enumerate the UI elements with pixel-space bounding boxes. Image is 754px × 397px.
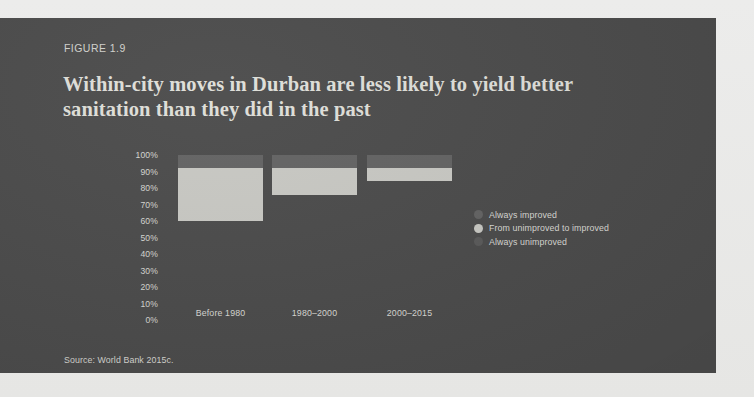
legend-label: From unimproved to improved bbox=[489, 223, 609, 233]
legend-item[interactable]: Always unimproved bbox=[474, 235, 654, 249]
bar-segment[interactable] bbox=[272, 155, 357, 168]
bar-group bbox=[367, 18, 452, 373]
legend-swatch-icon bbox=[474, 210, 483, 219]
bar-segment[interactable] bbox=[367, 181, 452, 320]
bar-segment[interactable] bbox=[178, 168, 263, 221]
legend-label: Always improved bbox=[489, 210, 557, 220]
stacked-bar[interactable] bbox=[178, 155, 263, 320]
stacked-bar[interactable] bbox=[272, 155, 357, 320]
legend-swatch-icon bbox=[474, 224, 483, 233]
legend-swatch-icon bbox=[474, 237, 483, 246]
legend-item[interactable]: Always improved bbox=[474, 208, 654, 222]
legend-label: Always unimproved bbox=[489, 237, 567, 247]
x-axis-tick-label: 1980–2000 bbox=[260, 308, 370, 318]
bar-segment[interactable] bbox=[178, 221, 263, 320]
bar-segment[interactable] bbox=[367, 155, 452, 168]
chart-legend: Always improvedFrom unimproved to improv… bbox=[474, 208, 654, 249]
bar-segment[interactable] bbox=[367, 168, 452, 181]
bar-segment[interactable] bbox=[272, 195, 357, 320]
bar-group bbox=[178, 18, 263, 373]
page-sheet: FIGURE 1.9 Within-city moves in Durban a… bbox=[0, 0, 754, 397]
bars-layer: Before 19801980–20002000–2015 bbox=[0, 18, 716, 373]
bar-segment[interactable] bbox=[272, 168, 357, 194]
chart-plot-area: 0%10%20%30%40%50%60%70%80%90%100% Before… bbox=[0, 18, 716, 373]
figure-panel: FIGURE 1.9 Within-city moves in Durban a… bbox=[0, 18, 716, 373]
x-axis-tick-label: 2000–2015 bbox=[355, 308, 465, 318]
stacked-bar[interactable] bbox=[367, 155, 452, 320]
bar-group bbox=[272, 18, 357, 373]
source-note: Source: World Bank 2015c. bbox=[64, 355, 173, 365]
legend-item[interactable]: From unimproved to improved bbox=[474, 222, 654, 236]
bar-segment[interactable] bbox=[178, 155, 263, 168]
